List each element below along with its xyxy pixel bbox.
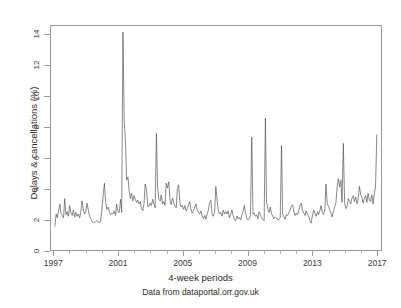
x-tick-mark xyxy=(377,251,378,256)
x-tick-label: 1997 xyxy=(33,259,73,268)
x-tick-minor xyxy=(215,251,216,254)
x-tick-mark xyxy=(53,251,54,256)
x-tick-minor xyxy=(102,251,103,254)
x-tick-label: 2013 xyxy=(292,259,332,268)
delays-line xyxy=(55,32,377,226)
x-tick-label: 2001 xyxy=(98,259,138,268)
x-tick-minor xyxy=(86,251,87,254)
y-tick-mark xyxy=(44,251,50,252)
y-tick-label: 14 xyxy=(33,23,41,45)
y-tick-mark xyxy=(44,34,50,35)
x-tick-mark xyxy=(248,251,249,256)
x-axis-title: 4-week periods xyxy=(0,272,401,283)
x-tick-minor xyxy=(329,251,330,254)
series-line xyxy=(51,26,381,250)
y-tick-label: 12 xyxy=(33,54,41,76)
x-tick-minor xyxy=(361,251,362,254)
y-tick-mark xyxy=(44,65,50,66)
y-tick-mark xyxy=(44,96,50,97)
y-tick-label: 4 xyxy=(33,178,41,200)
x-tick-minor xyxy=(69,251,70,254)
x-tick-mark xyxy=(183,251,184,256)
x-tick-minor xyxy=(150,251,151,254)
x-tick-mark xyxy=(312,251,313,256)
x-tick-label: 2005 xyxy=(163,259,203,268)
x-tick-mark xyxy=(118,251,119,256)
x-tick-minor xyxy=(199,251,200,254)
x-tick-minor xyxy=(345,251,346,254)
y-tick-label: 2 xyxy=(33,209,41,231)
y-tick-label: 10 xyxy=(33,85,41,107)
y-tick-mark xyxy=(44,127,50,128)
x-tick-minor xyxy=(296,251,297,254)
y-tick-mark xyxy=(44,220,50,221)
x-tick-label: 2009 xyxy=(228,259,268,268)
x-tick-minor xyxy=(231,251,232,254)
x-tick-minor xyxy=(264,251,265,254)
source-caption: Data from dataportal.orr.gov.uk xyxy=(0,287,401,297)
chart-container: Delays & cancellations (%) 02468101214 1… xyxy=(0,0,401,308)
y-tick-label: 6 xyxy=(33,147,41,169)
x-tick-label: 2017 xyxy=(357,259,397,268)
plot-area xyxy=(50,25,382,251)
x-tick-minor xyxy=(280,251,281,254)
y-tick-mark xyxy=(44,189,50,190)
y-tick-mark xyxy=(44,158,50,159)
x-tick-minor xyxy=(134,251,135,254)
x-tick-minor xyxy=(167,251,168,254)
y-tick-label: 8 xyxy=(33,116,41,138)
